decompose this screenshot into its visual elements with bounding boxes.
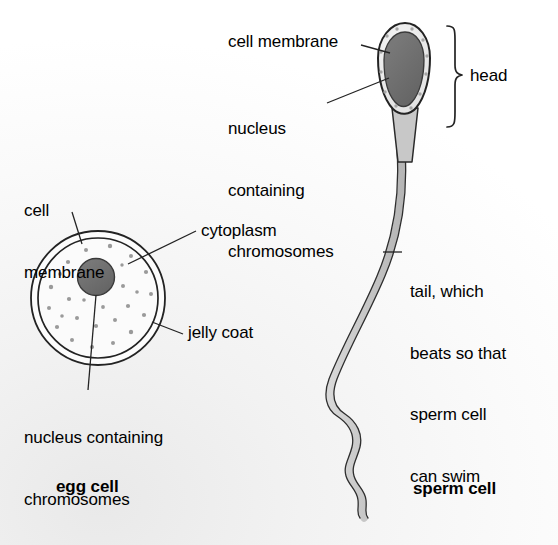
sperm-head-label: head bbox=[470, 66, 507, 87]
sperm-midpiece bbox=[392, 108, 418, 162]
sperm-cell-caption: sperm cell bbox=[413, 479, 496, 500]
sperm-tail-outline bbox=[330, 150, 402, 518]
sperm-nucleus-label: nucleus containing chromosomes bbox=[228, 78, 334, 304]
egg-nucleus-label-line1: nucleus containing bbox=[24, 428, 163, 449]
sperm-nucleus-label-line2: containing bbox=[228, 181, 334, 202]
egg-cell-caption: egg cell bbox=[56, 477, 119, 498]
egg-cell-membrane-label: cell membrane bbox=[24, 160, 104, 324]
sperm-tail-label-line1: tail, which bbox=[410, 282, 506, 303]
leader-sperm-nucleus bbox=[327, 78, 389, 103]
sperm-tail-label-line3: sperm cell bbox=[410, 405, 506, 426]
sperm-tail-label-line2: beats so that bbox=[410, 344, 506, 365]
diagram-canvas: cell membrane cytoplasm jelly coat nucle… bbox=[0, 0, 558, 545]
egg-cell-membrane-label-line1: cell bbox=[24, 201, 104, 222]
sperm-tail-edge-right bbox=[334, 150, 406, 518]
sperm-tail bbox=[330, 150, 402, 518]
egg-jelly-coat-label: jelly coat bbox=[188, 323, 253, 344]
sperm-cell-membrane-label: cell membrane bbox=[228, 32, 338, 53]
sperm-nucleus-label-line3: chromosomes bbox=[228, 242, 334, 263]
sperm-tail-edge-left bbox=[326, 150, 398, 518]
head-bracket bbox=[447, 26, 462, 127]
egg-nucleus-label: nucleus containing chromosomes bbox=[24, 387, 163, 545]
egg-cell-membrane-label-line2: membrane bbox=[24, 263, 104, 284]
sperm-nucleus-label-line1: nucleus bbox=[228, 119, 334, 140]
